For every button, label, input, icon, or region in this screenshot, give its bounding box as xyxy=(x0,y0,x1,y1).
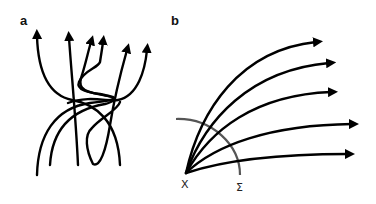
trajectory-b1 xyxy=(186,42,316,173)
panel-a-trajectories xyxy=(37,36,147,175)
origin-label-x: X xyxy=(181,178,189,191)
panel-b-trajectories xyxy=(186,42,352,173)
diagram-canvas xyxy=(0,0,376,204)
surface-label-sigma: Σ xyxy=(236,181,243,194)
trajectory-b5 xyxy=(186,154,348,173)
